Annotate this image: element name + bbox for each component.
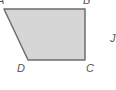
vertex-label-d: D (17, 62, 25, 74)
vertex-label-a: A (0, 0, 4, 6)
trapezoid-diagram: A B C D J (0, 0, 116, 90)
vertex-label-b: B (83, 0, 90, 6)
trapezoid-abcd (4, 9, 85, 60)
label-j: J (109, 32, 116, 44)
vertex-label-c: C (86, 62, 94, 74)
